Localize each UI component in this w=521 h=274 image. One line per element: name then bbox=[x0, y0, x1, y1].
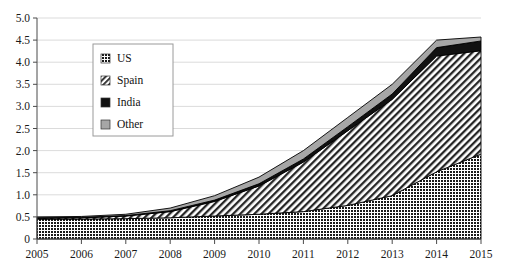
y-tick-label-0: 0 bbox=[24, 233, 30, 245]
x-tick-label-2007: 2007 bbox=[114, 248, 137, 260]
x-tick-label-2014: 2014 bbox=[425, 248, 448, 260]
y-tick-label-1.0: 1.0 bbox=[16, 189, 31, 201]
legend-swatch-spain bbox=[101, 76, 110, 85]
chart-legend: USSpainIndiaOther bbox=[93, 44, 173, 136]
y-tick-label-3.0: 3.0 bbox=[16, 100, 31, 112]
x-tick-label-2010: 2010 bbox=[248, 248, 271, 260]
y-tick-label-1.5: 1.5 bbox=[16, 167, 31, 179]
y-tick-label-5.0: 5.0 bbox=[16, 12, 31, 24]
x-tick-label-2009: 2009 bbox=[203, 248, 226, 260]
stacked-area-chart: 00.51.01.52.02.53.03.54.04.55.0 20052006… bbox=[0, 0, 521, 274]
y-tick-label-4.0: 4.0 bbox=[16, 56, 31, 68]
x-tick-label-2005: 2005 bbox=[26, 248, 49, 260]
y-tick-label-4.5: 4.5 bbox=[16, 34, 31, 46]
legend-label-spain: Spain bbox=[117, 74, 143, 87]
x-tick-label-2015: 2015 bbox=[470, 248, 493, 260]
legend-swatch-other bbox=[101, 120, 110, 129]
legend-label-other: Other bbox=[117, 118, 143, 130]
y-tick-label-0.5: 0.5 bbox=[16, 211, 31, 223]
y-tick-label-2.0: 2.0 bbox=[16, 145, 31, 157]
legend-label-india: India bbox=[117, 96, 141, 108]
y-tick-label-2.5: 2.5 bbox=[16, 123, 31, 135]
legend-swatch-us bbox=[101, 54, 110, 63]
chart-svg: 00.51.01.52.02.53.03.54.04.55.0 20052006… bbox=[0, 0, 521, 274]
x-tick-label-2011: 2011 bbox=[292, 248, 315, 260]
legend-swatch-india bbox=[101, 98, 110, 107]
y-tick-label-3.5: 3.5 bbox=[16, 78, 31, 90]
x-tick-label-2012: 2012 bbox=[336, 248, 359, 260]
x-tick-label-2008: 2008 bbox=[159, 248, 182, 260]
x-tick-label-2013: 2013 bbox=[381, 248, 404, 260]
x-tick-label-2006: 2006 bbox=[70, 248, 93, 260]
legend-label-us: US bbox=[117, 52, 132, 64]
